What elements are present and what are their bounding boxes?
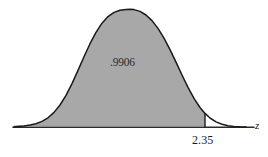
axis-variable-label: z <box>255 120 259 131</box>
z-value-tick-label: 2.35 <box>192 134 213 146</box>
area-probability-label: .9906 <box>110 57 135 69</box>
distribution-plot <box>0 0 268 157</box>
normal-distribution-figure: .9906 2.35 z <box>0 0 268 157</box>
